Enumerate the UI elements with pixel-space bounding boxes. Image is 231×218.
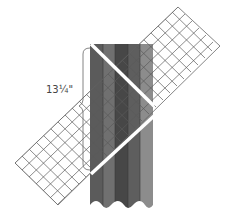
measurement-label: 13¼" xyxy=(46,84,73,95)
quilt-cutting-diagram: 13¼" xyxy=(0,0,231,218)
